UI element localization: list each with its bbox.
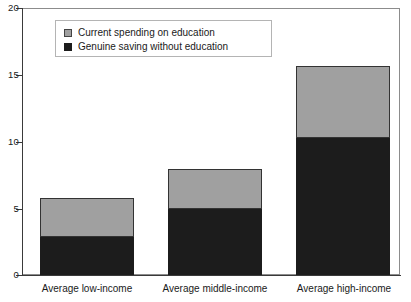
y-tick-label-0: 0 bbox=[0, 270, 19, 280]
legend-label-current-spending: Current spending on education bbox=[78, 28, 215, 38]
y-tick-label-20: 20 bbox=[0, 3, 19, 13]
y-tick-label-5: 5 bbox=[0, 204, 19, 214]
x-axis-label-average-high-income: Average high-income bbox=[280, 283, 408, 294]
y-tick-label-10: 10 bbox=[0, 137, 19, 147]
legend-item-current-spending[interactable]: Current spending on education bbox=[64, 26, 215, 39]
bar-segment-genuine-saving bbox=[168, 209, 262, 275]
bar-average-high-income[interactable] bbox=[296, 66, 390, 275]
legend-label-genuine-saving: Genuine saving without education bbox=[78, 42, 228, 52]
legend-swatch-black-icon bbox=[64, 43, 72, 51]
legend-swatch-gray-icon bbox=[64, 29, 72, 37]
bar-segment-current-spending bbox=[296, 66, 390, 138]
legend: Current spending on education Genuine sa… bbox=[55, 20, 272, 57]
x-axis-label-average-middle-income: Average middle-income bbox=[148, 283, 282, 294]
legend-item-genuine-saving[interactable]: Genuine saving without education bbox=[64, 40, 228, 53]
bar-segment-genuine-saving bbox=[296, 138, 390, 275]
bar-segment-current-spending bbox=[40, 198, 134, 237]
stacked-bar-chart: 20 15 10 5 0 Current spending on educati… bbox=[0, 0, 411, 302]
x-axis-line bbox=[22, 275, 401, 276]
bar-average-low-income[interactable] bbox=[40, 198, 134, 275]
bar-segment-current-spending bbox=[168, 169, 262, 209]
bar-segment-genuine-saving bbox=[40, 237, 134, 275]
x-axis-label-average-low-income: Average low-income bbox=[22, 283, 152, 294]
bar-average-middle-income[interactable] bbox=[168, 169, 262, 275]
y-tick-label-15: 15 bbox=[0, 70, 19, 80]
